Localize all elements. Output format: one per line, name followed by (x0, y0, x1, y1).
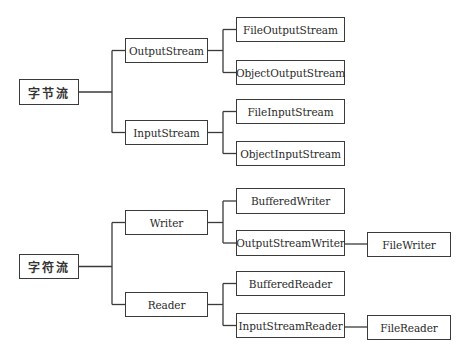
node-label: FileInputStream (247, 106, 333, 118)
node-label: InputStream (133, 127, 199, 139)
node-file-writer: FileWriter (367, 232, 451, 257)
node-label: FileReader (380, 322, 438, 334)
node-label: ObjectInputStream (240, 148, 341, 160)
node-writer: Writer (125, 210, 208, 235)
node-label: 字符流 (28, 258, 70, 275)
node-byte-stream: 字节流 (19, 79, 79, 105)
node-buffered-writer: BufferedWriter (236, 188, 345, 214)
node-reader: Reader (125, 292, 208, 317)
node-label: OutputStreamWriter (236, 237, 345, 249)
node-label: FileWriter (382, 239, 435, 251)
node-object-input-stream: ObjectInputStream (236, 141, 345, 166)
node-file-reader: FileReader (367, 315, 451, 340)
node-label: ObjectOutputStream (236, 67, 345, 79)
node-label: Writer (150, 217, 184, 229)
node-label: BufferedReader (249, 278, 332, 290)
node-file-input-stream: FileInputStream (236, 99, 345, 124)
node-label: Reader (148, 299, 186, 311)
node-output-stream: OutputStream (125, 38, 208, 63)
node-output-stream-writer: OutputStreamWriter (236, 230, 345, 256)
node-label: OutputStream (129, 45, 204, 57)
node-label: 字节流 (28, 84, 70, 101)
node-label: FileOutputStream (243, 24, 338, 36)
node-file-output-stream: FileOutputStream (236, 17, 345, 42)
node-label: InputStreamReader (238, 320, 342, 332)
node-input-stream: InputStream (125, 120, 208, 145)
io-stream-hierarchy-diagram: 字节流 OutputStream FileOutputStream Object… (0, 0, 467, 355)
node-input-stream-reader: InputStreamReader (236, 313, 345, 338)
node-label: BufferedWriter (251, 195, 330, 207)
connector-lines (0, 0, 467, 355)
node-char-stream: 字符流 (19, 254, 79, 279)
node-object-output-stream: ObjectOutputStream (236, 60, 345, 85)
node-buffered-reader: BufferedReader (236, 271, 345, 296)
